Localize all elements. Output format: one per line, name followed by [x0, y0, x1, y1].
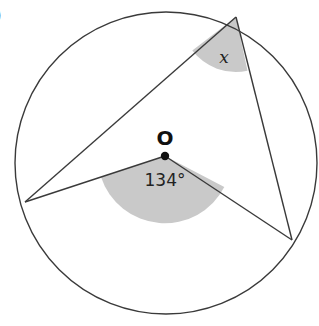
chord-ac [236, 17, 292, 240]
inscribed-angle-label: x [219, 47, 229, 67]
circle-theorem-diagram: ) O 134° x [0, 0, 319, 326]
center-point [161, 152, 169, 160]
center-label: O [156, 126, 173, 150]
part-label: ) [0, 2, 2, 27]
central-angle-label: 134° [145, 170, 186, 190]
